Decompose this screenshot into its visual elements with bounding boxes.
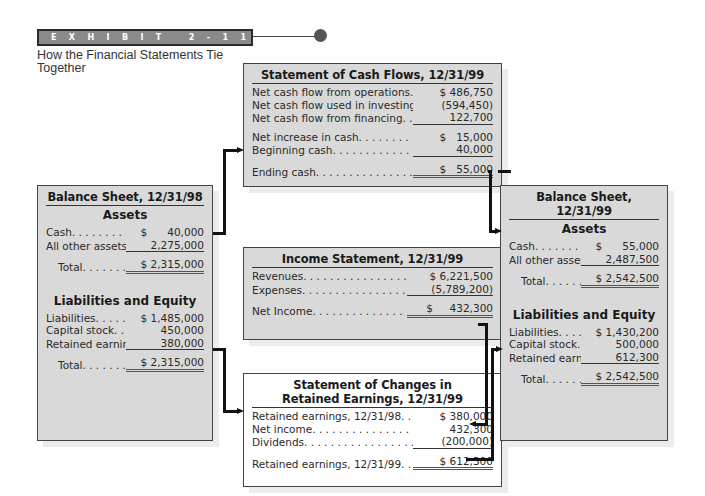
exhibit-banner: EXHIBIT 2-11 xyxy=(37,29,253,46)
arrow-right-icon xyxy=(495,228,502,234)
re-row-dividends: Dividends. . . . . . . . . . . . . . . .… xyxy=(252,435,493,449)
bs99-row-le-total: Total. . . . . . . . $ 2,542,500 xyxy=(509,370,659,386)
bs98-row-other-assets: All other assets. . 2,275,000 xyxy=(46,239,204,253)
bs98-row-le-total: Total. . . . . . . . $ 2,315,000 xyxy=(46,356,204,372)
bs99-title: Balance Sheet, 12/31/99 xyxy=(509,190,659,220)
banner-dot-icon xyxy=(314,29,327,42)
bs99-row-cash: Cash. . . . . . . . . $ 55,000 xyxy=(509,240,659,253)
cash-flows-statement: Statement of Cash Flows, 12/31/99 Net ca… xyxy=(243,63,502,187)
re-title-line1: Statement of Changes in xyxy=(252,378,493,392)
arrow-right-icon xyxy=(237,147,244,153)
bs98-le-heading: Liabilities and Equity xyxy=(46,294,204,308)
bs99-row-assets-total: Total. . . . . . . . $ 2,542,500 xyxy=(509,272,659,288)
cf-row-operations: Net cash flow from operations. . . $ 486… xyxy=(252,86,493,99)
bs99-row-capital-stock: Capital stock. . . 500,000 xyxy=(509,338,659,351)
bs98-row-assets-total: Total. . . . . . . . $ 2,315,000 xyxy=(46,258,204,274)
income-statement-title: Income Statement, 12/31/99 xyxy=(252,252,493,268)
re-title-line2: Retained Earnings, 12/31/99 xyxy=(252,392,493,406)
exhibit-subtitle: How the Financial Statements Tie Togethe… xyxy=(37,49,237,75)
bs99-row-liabilities: Liabilities. . . . . . $ 1,430,200 xyxy=(509,326,659,339)
retained-earnings-statement: Statement of Changes in Retained Earning… xyxy=(243,373,502,487)
re-row-beginning: Retained earnings, 12/31/98. . . $ 380,0… xyxy=(252,410,493,423)
cf-row-beginning-cash: Beginning cash. . . . . . . . . . . . . … xyxy=(252,143,493,157)
bs99-row-other-assets: All other assets. . 2,487,500 xyxy=(509,253,659,267)
cf-row-ending-cash: Ending cash. . . . . . . . . . . . . . .… xyxy=(252,163,493,179)
is-row-revenues: Revenues. . . . . . . . . . . . . . . . … xyxy=(252,270,493,283)
re-title: Statement of Changes in Retained Earning… xyxy=(252,378,493,408)
cf-row-financing: Net cash flow from financing. . . . 122,… xyxy=(252,111,493,125)
is-row-net-income: Net Income. . . . . . . . . . . . . . $ … xyxy=(252,302,493,318)
cf-row-net-increase: Net increase in cash. . . . . . . . . . … xyxy=(252,131,493,144)
arrow-right-icon xyxy=(237,408,244,414)
re-row-net-income: Net income. . . . . . . . . . . . . . . … xyxy=(252,423,493,436)
arrow-right-icon xyxy=(496,346,503,352)
cash-flows-title: Statement of Cash Flows, 12/31/99 xyxy=(252,68,493,84)
bs99-le-heading: Liabilities and Equity xyxy=(509,308,659,322)
balance-sheet-98: Balance Sheet, 12/31/98 Assets Cash. . .… xyxy=(37,185,213,441)
bs99-assets-heading: Assets xyxy=(509,222,659,236)
re-row-ending: Retained earnings, 12/31/99. . . $ 612,3… xyxy=(252,455,493,471)
is-row-expenses: Expenses. . . . . . . . . . . . . . . . … xyxy=(252,283,493,297)
exhibit-label: EXHIBIT 2-11 xyxy=(51,33,258,42)
bs99-row-retained-earnings: Retained earnings 612,300 xyxy=(509,351,659,365)
income-statement: Income Statement, 12/31/99 Revenues. . .… xyxy=(243,247,502,340)
bs98-assets-heading: Assets xyxy=(46,208,204,222)
bs98-title: Balance Sheet, 12/31/98 xyxy=(46,190,204,206)
bs98-row-capital-stock: Capital stock. . . 450,000 xyxy=(46,324,204,337)
bs98-row-liabilities: Liabilities. . . . . . $ 1,485,000 xyxy=(46,312,204,325)
bs98-row-cash: Cash. . . . . . . . . $ 40,000 xyxy=(46,226,204,239)
bs98-row-retained-earnings: Retained earnings 380,000 xyxy=(46,337,204,351)
arrow-left-icon xyxy=(469,421,476,427)
cf-row-investing: Net cash flow used in investing. . (594,… xyxy=(252,99,493,112)
banner-rule xyxy=(253,36,317,37)
balance-sheet-99: Balance Sheet, 12/31/99 Assets Cash. . .… xyxy=(500,185,668,441)
